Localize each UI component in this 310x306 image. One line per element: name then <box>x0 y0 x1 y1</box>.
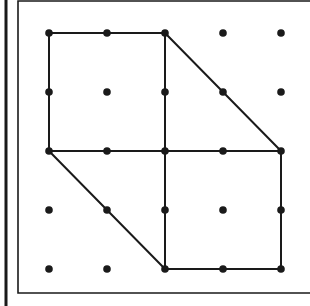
grid-dot <box>219 88 227 96</box>
grid-dot <box>277 88 285 96</box>
geoboard-figure <box>0 0 310 306</box>
grid-dot <box>161 147 169 155</box>
grid-dot <box>219 29 227 37</box>
grid-dot <box>103 265 111 273</box>
grid-dot <box>277 206 285 214</box>
grid-dot <box>45 29 53 37</box>
grid-dot <box>161 265 169 273</box>
grid-dot <box>45 147 53 155</box>
grid-dot <box>277 29 285 37</box>
grid-dot <box>45 88 53 96</box>
grid-dot <box>103 147 111 155</box>
grid-dot <box>161 29 169 37</box>
grid-dot <box>277 265 285 273</box>
grid-dot <box>219 147 227 155</box>
grid-dot <box>103 206 111 214</box>
grid-dot <box>161 206 169 214</box>
grid-dot <box>103 88 111 96</box>
grid-dot <box>45 265 53 273</box>
grid-dot <box>161 88 169 96</box>
grid-dot <box>103 29 111 37</box>
grid-dot <box>45 206 53 214</box>
grid-dot <box>219 206 227 214</box>
grid-dot <box>277 147 285 155</box>
grid-dot <box>219 265 227 273</box>
